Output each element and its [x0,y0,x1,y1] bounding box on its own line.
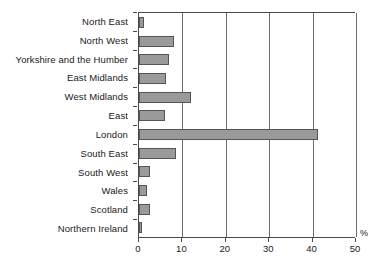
x-tick-label: 10 [176,243,187,254]
x-tick-mark [181,238,182,242]
y-tick-mark [133,68,137,69]
category-label: North West [0,31,133,50]
bar-chart: North EastNorth WestYorkshire and the Hu… [0,0,374,270]
y-tick-mark [133,125,137,126]
bar-slot [139,144,355,163]
x-tick-mark [268,238,269,242]
bar-slot [139,69,355,88]
y-tick-mark [133,12,137,13]
x-tick-label: 40 [306,243,317,254]
y-tick-mark [133,219,137,220]
x-tick-label: 30 [263,243,274,254]
bar [139,185,147,196]
x-tick-label: 0 [135,243,140,254]
bar [139,166,150,177]
x-tick-label: 20 [220,243,231,254]
category-label: South West [0,163,133,182]
y-tick-mark [133,163,137,164]
bar-slot [139,125,355,144]
x-axis-tick-labels: 01020304050 [0,243,374,259]
category-label: South East [0,144,133,163]
category-label: Wales [0,181,133,200]
bar-slot [139,106,355,125]
bar [139,110,165,121]
bar [139,129,318,140]
bar-slot [139,200,355,219]
y-tick-mark [133,200,137,201]
bar [139,148,176,159]
category-label: North East [0,12,133,31]
bar [139,92,191,103]
bar-slot [139,218,355,237]
bar-slot [139,162,355,181]
y-tick-mark [133,106,137,107]
bar [139,73,166,84]
x-tick-label: 50 [350,243,361,254]
bar-slot [139,13,355,32]
category-axis-labels: North EastNorth WestYorkshire and the Hu… [0,12,133,238]
bar-slot [139,181,355,200]
y-tick-mark [133,50,137,51]
bar-slot [139,32,355,51]
y-tick-mark [133,144,137,145]
category-label: London [0,125,133,144]
category-label: East Midlands [0,68,133,87]
bar [139,36,174,47]
category-label: Yorkshire and the Humber [0,50,133,69]
bar [139,222,142,233]
x-tick-mark [225,238,226,242]
y-tick-mark [133,181,137,182]
category-label: East [0,106,133,125]
x-tick-mark [138,238,139,242]
category-label: Scotland [0,200,133,219]
bar-slot [139,50,355,69]
y-tick-mark [133,31,137,32]
y-tick-mark [133,87,137,88]
bar [139,54,169,65]
category-label: West Midlands [0,87,133,106]
category-label: Northern Ireland [0,219,133,238]
gridline [356,13,357,237]
bar [139,204,150,215]
x-tick-mark [355,238,356,242]
bar-slot [139,88,355,107]
plot-area [138,12,355,238]
bar [139,17,144,28]
bar-series [139,13,355,237]
axis-unit-label: % [360,228,368,238]
x-tick-mark [312,238,313,242]
